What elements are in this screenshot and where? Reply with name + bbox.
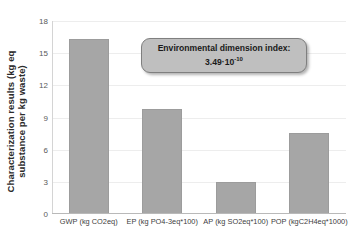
annotation-callout: Environmental dimension index: 3.49·10-1…: [141, 38, 307, 73]
x-axis-tick-label: GWP (kg CO2eq): [60, 217, 118, 226]
x-axis-tick-label: POP (kgC2H4eq*1000): [271, 217, 348, 226]
y-axis-tick-label: 15: [22, 49, 48, 58]
y-axis-tick-label: 12: [22, 81, 48, 90]
annotation-mantissa: 3.49·10: [205, 57, 234, 67]
bar-chart: Characterization results (kg eq substanc…: [0, 0, 358, 243]
bar[interactable]: [289, 133, 329, 214]
y-axis-tick-label: 3: [22, 177, 48, 186]
y-axis-tick-labels: 0369121518: [18, 21, 48, 214]
annotation-value: 3.49·10-10: [205, 54, 243, 68]
bar[interactable]: [216, 182, 256, 214]
bar[interactable]: [69, 39, 109, 214]
y-axis-tick-label: 9: [22, 113, 48, 122]
bar-slot: [52, 21, 126, 214]
x-axis-tick-labels: GWP (kg CO2eq)EP (kg PO4-3eq*100)AP (kg …: [52, 217, 346, 233]
x-axis-line: [52, 213, 346, 214]
x-axis-tick-label: AP (kg SO2eq*100): [203, 217, 268, 226]
y-axis-tick-label: 18: [22, 17, 48, 26]
x-axis-tick-label: EP (kg PO4-3eq*100): [127, 217, 198, 226]
annotation-title: Environmental dimension index:: [158, 43, 291, 54]
annotation-exponent: -10: [234, 56, 243, 62]
y-axis-tick-label: 6: [22, 145, 48, 154]
bar[interactable]: [142, 109, 182, 214]
y-axis-tick-label: 0: [22, 210, 48, 219]
